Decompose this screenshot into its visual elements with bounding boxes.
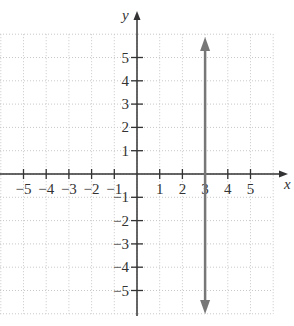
y-tick-label: −1 xyxy=(113,189,129,205)
line-arrow-down-icon xyxy=(200,300,210,314)
x-tick-label: 4 xyxy=(224,181,232,197)
coordinate-graph: −5−4−3−2−11234554321−1−2−3−4−5 x y xyxy=(0,0,294,326)
x-axis-label: x xyxy=(283,176,291,192)
x-tick-label: −3 xyxy=(61,181,77,197)
x-tick-label: 5 xyxy=(247,181,255,197)
y-tick-label: 5 xyxy=(122,50,130,66)
x-tick-label: −4 xyxy=(38,181,54,197)
vertical-line-x-3 xyxy=(200,37,210,314)
y-tick-label: −5 xyxy=(113,283,129,299)
y-tick-label: 2 xyxy=(122,119,130,135)
x-tick-label: −5 xyxy=(16,181,32,197)
y-axis-label: y xyxy=(120,7,129,23)
x-tick-label: −2 xyxy=(84,181,100,197)
y-tick-label: 1 xyxy=(122,143,130,159)
line-arrow-up-icon xyxy=(200,37,210,51)
x-tick-label: 1 xyxy=(156,181,164,197)
x-tick-label: 2 xyxy=(179,181,187,197)
axes xyxy=(0,11,288,316)
graph-canvas: −5−4−3−2−11234554321−1−2−3−4−5 x y xyxy=(0,0,294,326)
y-tick-label: −4 xyxy=(113,259,129,275)
y-axis-arrow-icon xyxy=(134,11,141,20)
y-tick-label: −3 xyxy=(113,236,129,252)
y-tick-label: 3 xyxy=(122,96,130,112)
y-tick-label: 4 xyxy=(122,73,130,89)
y-tick-label: −2 xyxy=(113,213,129,229)
